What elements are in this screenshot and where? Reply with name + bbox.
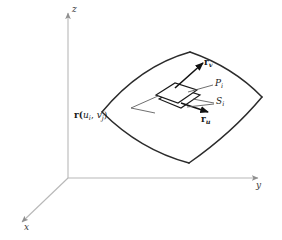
leader-line-position-vector-2	[131, 108, 155, 113]
tangent-vector-u-subscript: u	[206, 118, 211, 126]
surface-diagram-figure: z y x rv ru Pi Si r(ui, vj)	[0, 0, 282, 240]
tangent-vector-u-label: ru	[201, 115, 210, 125]
tangent-vector-v-label: rv	[204, 58, 213, 68]
y-axis-label: y	[256, 181, 261, 190]
surface-edge-bottom-right	[189, 97, 262, 163]
diagram-canvas	[0, 0, 282, 240]
x-axis-line	[22, 178, 68, 222]
patch-Si-subscript: i	[222, 100, 224, 108]
position-vector-close-paren: )	[104, 110, 108, 120]
surface-edge-top-right	[190, 52, 262, 97]
z-axis-label: z	[72, 5, 77, 14]
position-vector-function: r(	[74, 110, 83, 120]
surface-edge-bottom-left	[102, 112, 189, 163]
tangent-vector-u-arrow	[181, 103, 208, 112]
leader-line-Si-lower	[187, 104, 214, 107]
position-vector-label: r(ui, vj)	[74, 111, 107, 121]
patch-Pi-subscript: i	[221, 82, 223, 90]
leader-line-position-vector	[131, 96, 158, 108]
patch-Pi-label: Pi	[215, 79, 223, 89]
tangent-vector-v-subscript: v	[209, 61, 213, 69]
coordinate-axes	[22, 13, 258, 222]
tangent-vector-v-arrow	[175, 63, 203, 88]
patch-Si-label: Si	[216, 97, 224, 107]
leader-line-Si-upper	[193, 99, 214, 103]
x-axis-label: x	[24, 223, 29, 232]
